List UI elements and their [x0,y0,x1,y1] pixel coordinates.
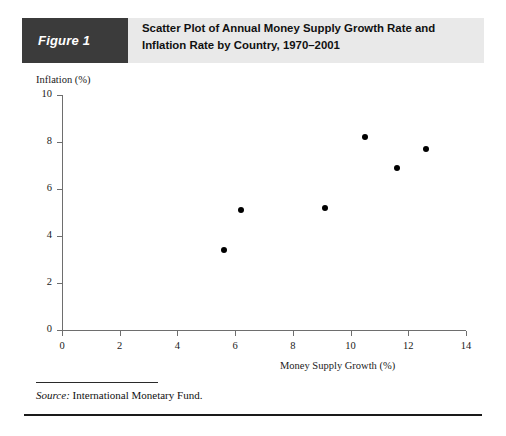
x-tick-mark [466,331,467,336]
x-tick-mark [408,331,409,336]
figure-page: Figure 1 Scatter Plot of Annual Money Su… [0,0,506,436]
y-tick-label: 10 [26,88,52,99]
x-tick-mark [62,331,63,336]
source-text: International Monetary Fund. [70,389,203,401]
source-divider [36,382,158,383]
x-tick-label: 12 [393,340,423,351]
x-tick-mark [293,331,294,336]
x-tick-label: 0 [47,340,77,351]
source-note: Source: International Monetary Fund. [36,389,202,401]
x-tick-label: 10 [336,340,366,351]
y-tick-mark [57,283,62,284]
data-point [322,205,328,211]
y-tick-mark [57,236,62,237]
y-tick-mark [57,142,62,143]
y-tick-mark [57,95,62,96]
x-tick-label: 8 [278,340,308,351]
y-axis-line [62,95,63,331]
x-tick-mark [177,331,178,336]
data-point [362,134,368,140]
x-axis-line [62,330,466,331]
data-point [423,146,429,152]
y-tick-label: 6 [26,182,52,193]
x-tick-label: 4 [162,340,192,351]
source-label: Source: [36,389,70,401]
y-axis-title: Inflation (%) [36,74,91,85]
y-tick-mark [57,189,62,190]
data-point [221,247,227,253]
x-tick-label: 2 [105,340,135,351]
data-point [238,207,244,213]
y-tick-label: 2 [26,276,52,287]
y-tick-label: 0 [26,323,52,334]
x-tick-label: 6 [220,340,250,351]
y-tick-label: 8 [26,135,52,146]
x-tick-mark [351,331,352,336]
x-axis-title: Money Supply Growth (%) [280,360,395,371]
x-tick-label: 14 [451,340,481,351]
data-point [394,165,400,171]
bottom-divider [24,414,482,416]
x-tick-mark [120,331,121,336]
x-tick-mark [235,331,236,336]
scatter-chart: Inflation (%) Money Supply Growth (%) 02… [0,0,506,400]
y-tick-label: 4 [26,229,52,240]
